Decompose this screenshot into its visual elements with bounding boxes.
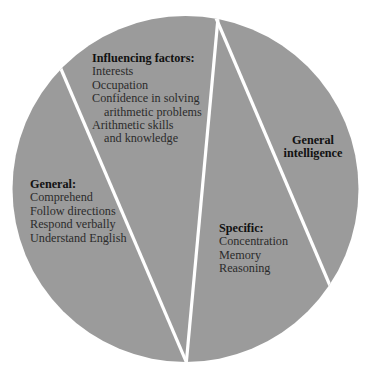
segment-influencing-factors: Influencing factors: Interests Occupatio… (92, 52, 202, 146)
segment-heading-line: General (281, 134, 345, 147)
segment-item: Concentration (219, 235, 288, 248)
segment-heading-line: intelligence (281, 147, 345, 160)
segment-heading: Specific: (219, 222, 288, 235)
segment-item: Understand English (30, 232, 126, 245)
segment-item: Comprehend (30, 191, 126, 204)
segment-general: General: Comprehend Follow directions Re… (30, 178, 126, 245)
segment-general-intelligence: General intelligence (281, 134, 345, 161)
segment-item: Respond verbally (30, 218, 126, 231)
segment-heading: General: (30, 178, 126, 191)
segment-heading: Influencing factors: (92, 52, 202, 65)
segment-item: Reasoning (219, 262, 288, 275)
segment-specific: Specific: Concentration Memory Reasoning (219, 222, 288, 276)
segment-item: Occupation (92, 79, 202, 92)
segment-item: Confidence in solving (92, 92, 202, 105)
segment-item: Memory (219, 249, 288, 262)
segment-item: Follow directions (30, 205, 126, 218)
segment-item: Arithmetic skills (92, 119, 202, 132)
segment-item: Interests (92, 65, 202, 78)
segment-item: and knowledge (92, 132, 202, 145)
segment-item: arithmetic problems (92, 106, 202, 119)
